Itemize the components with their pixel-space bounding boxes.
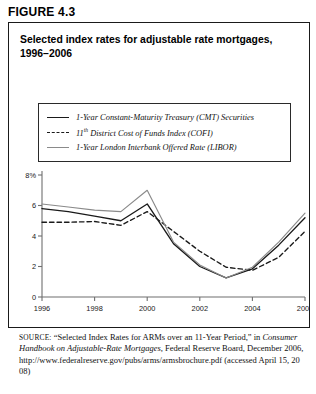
legend-line-solid-gray-icon [47, 147, 69, 148]
y-tick-label: 6 [32, 201, 36, 210]
y-tick-label: 4 [32, 232, 36, 241]
source-note: SOURCE: “Selected Index Rates for ARMs o… [8, 327, 310, 378]
figure-page: FIGURE 4.3 Selected index rates for adju… [0, 0, 316, 394]
legend-label-cofi: 11th District Cost of Funds Index (COFI) [76, 127, 213, 138]
legend-label-libor: 1-Year London Interbank Offered Rate (LI… [76, 143, 237, 152]
x-tick-label: 2004 [244, 304, 260, 313]
figure-title-line1: Selected index rates for adjustable rate… [20, 33, 299, 47]
line-chart: 8%6420199619982000200220042006 [9, 165, 310, 325]
legend-item-cmt: 1-Year Constant-Maturity Treasury (CMT) … [47, 110, 282, 124]
chart-plot-area: 8%6420199619982000200220042006 [9, 165, 309, 325]
legend-label-cofi-prefix: 11 [76, 128, 84, 137]
x-tick-label: 1998 [86, 304, 102, 313]
legend-item-libor: 1-Year London Interbank Offered Rate (LI… [47, 140, 282, 154]
figure-title-line2: 1996–2006 [20, 47, 299, 61]
legend-line-solid-black-icon [47, 117, 69, 118]
figure-title: Selected index rates for adjustable rate… [9, 23, 309, 60]
legend-label-cofi-rest: District Cost of Funds Index (COFI) [88, 128, 213, 137]
x-tick-label: 2000 [139, 304, 155, 313]
y-tick-label: 2 [32, 262, 36, 271]
legend-item-cofi: 11th District Cost of Funds Index (COFI) [47, 125, 282, 139]
series-line-libor [42, 190, 305, 278]
y-tick-label: 8% [25, 171, 36, 180]
y-tick-label: 0 [32, 293, 36, 302]
x-tick-label: 2006 [297, 304, 310, 313]
chart-legend: 1-Year Constant-Maturity Treasury (CMT) … [38, 103, 291, 162]
source-text-1: “Selected Index Rates for ARMs over an 1… [52, 332, 263, 342]
figure-box: Selected index rates for adjustable rate… [8, 22, 310, 327]
legend-label-cmt: 1-Year Constant-Maturity Treasury (CMT) … [76, 113, 254, 122]
source-prefix: SOURCE: [19, 333, 52, 342]
figure-label: FIGURE 4.3 [0, 0, 316, 22]
x-tick-label: 2002 [192, 304, 208, 313]
x-tick-label: 1996 [34, 304, 50, 313]
legend-line-dashed-icon [47, 132, 69, 133]
